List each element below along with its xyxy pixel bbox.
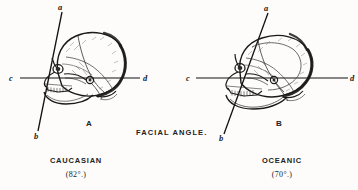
figure-a-letter: A bbox=[86, 119, 92, 128]
figure-b-label-d: d bbox=[350, 73, 355, 83]
figure-a-caption: CAUCASIAN bbox=[16, 156, 136, 165]
figure-a-label-d: d bbox=[143, 73, 148, 83]
figure-a-label-c: c bbox=[9, 73, 13, 83]
figure-a-angle-caption: (82°.) bbox=[16, 170, 136, 179]
figure-b-group: a b c d bbox=[186, 3, 355, 143]
figure-b-skull-drawing bbox=[226, 34, 312, 109]
figure-b-letter: B bbox=[276, 119, 282, 128]
figure-b-label-a: a bbox=[264, 3, 269, 13]
figure-b-label-b: b bbox=[219, 133, 223, 143]
illustration-plate: a b c d bbox=[0, 0, 358, 190]
figure-b-label-c: c bbox=[186, 73, 190, 83]
plate-title: FACIAL ANGLE. bbox=[136, 128, 207, 137]
figure-b-caption: OCEANIC bbox=[222, 156, 342, 165]
figure-b-angle-caption: (70°.) bbox=[222, 170, 342, 179]
figure-a-label-b: b bbox=[34, 131, 38, 141]
figure-a-group: a b c d bbox=[9, 2, 148, 141]
figure-a-label-a: a bbox=[58, 2, 63, 12]
